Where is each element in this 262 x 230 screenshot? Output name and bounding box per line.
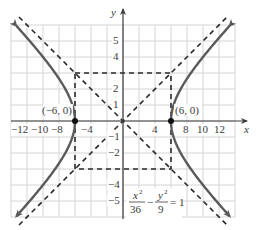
svg-text:x: x <box>132 189 138 201</box>
vertex-left-label: (−6, 0) <box>42 104 72 117</box>
x-axis-label: x <box>243 123 249 135</box>
y-tick-labels: 5 4 2 1 −1 −2 −4 −5 <box>107 34 122 206</box>
svg-text:−: − <box>147 196 153 208</box>
y-tick-label: 4 <box>113 50 119 62</box>
y-tick-label: −5 <box>108 194 120 206</box>
x-tick-label: −10 <box>31 123 49 135</box>
x-tick-label: 4 <box>152 123 158 135</box>
x-tick-label: −12 <box>11 123 28 135</box>
y-tick-label: −2 <box>108 146 120 158</box>
hyperbola-graph: (−6, 0) (6, 0) −12 −10 −8 −4 4 8 10 12 x… <box>0 0 262 230</box>
x-tick-label: 8 <box>183 123 189 135</box>
x-tick-label: 10 <box>197 123 209 135</box>
vertex-left <box>72 118 78 124</box>
y-tick-label: −4 <box>108 178 120 190</box>
y-tick-label: 1 <box>113 98 119 110</box>
x-tick-label: 12 <box>214 123 225 135</box>
svg-text:y: y <box>157 189 163 201</box>
x-tick-label: −8 <box>51 123 63 135</box>
y-tick-label: 5 <box>113 34 119 46</box>
y-axis-label: y <box>110 6 116 18</box>
svg-text:36: 36 <box>130 203 142 215</box>
vertex-right-label: (6, 0) <box>175 104 199 117</box>
y-tick-label: 2 <box>113 82 119 94</box>
svg-text:2: 2 <box>139 188 143 196</box>
svg-text:= 1: = 1 <box>170 196 184 208</box>
svg-text:9: 9 <box>158 203 164 215</box>
equation-label: x 2 36 − y 2 9 = 1 <box>126 188 184 218</box>
x-tick-label: −4 <box>81 123 93 135</box>
vertex-right <box>168 118 174 124</box>
y-tick-label: −1 <box>108 130 120 142</box>
svg-text:2: 2 <box>164 188 168 196</box>
